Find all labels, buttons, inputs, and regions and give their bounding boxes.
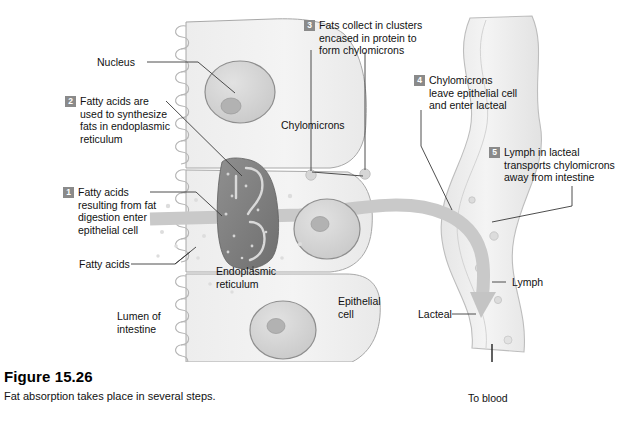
step-1: 1 Fatty acids resulting from fat digesti… bbox=[63, 186, 167, 236]
label-lymph: Lymph bbox=[512, 276, 543, 289]
figure-15-26: 1 Fatty acids resulting from fat digesti… bbox=[0, 0, 641, 428]
step-2-badge: 2 bbox=[65, 96, 76, 107]
label-nucleus: Nucleus bbox=[97, 56, 135, 69]
step-4-badge: 4 bbox=[414, 75, 425, 86]
step-1-badge: 1 bbox=[63, 187, 74, 198]
chylomicron-particle bbox=[306, 170, 316, 180]
chylomicron-vesicle bbox=[504, 336, 512, 344]
nucleus-top bbox=[205, 61, 275, 123]
nucleolus bbox=[267, 319, 285, 334]
step-4-text: Chylomicrons leave epithelial cell and e… bbox=[429, 74, 517, 112]
label-fatty-acids: Fatty acids bbox=[79, 258, 130, 271]
figure-caption-block: Figure 15.26 Fat absorption takes place … bbox=[4, 368, 624, 402]
nucleolus bbox=[311, 217, 329, 232]
step-2: 2 Fatty acids are used to synthesize fat… bbox=[65, 95, 177, 145]
label-lumen-of-intestine: Lumen of intestine bbox=[117, 310, 179, 335]
step-5-text: Lymph in lacteal transports chylomicrons… bbox=[504, 146, 615, 184]
nucleus-middle bbox=[294, 199, 360, 259]
label-epithelial-cell: Epithelial cell bbox=[338, 295, 398, 320]
chylomicron-vesicle bbox=[490, 232, 498, 240]
chylomicron-vesicle bbox=[469, 197, 475, 203]
label-chylomicrons: Chylomicrons bbox=[281, 119, 345, 132]
step-1-text: Fatty acids resulting from fat digestion… bbox=[78, 186, 156, 236]
step-4: 4 Chylomicrons leave epithelial cell and… bbox=[414, 74, 532, 112]
step-5-badge: 5 bbox=[489, 147, 500, 158]
lacteal-vessel bbox=[441, 16, 541, 352]
step-3-text: Fats collect in clusters encased in prot… bbox=[319, 19, 422, 57]
chylomicron-vesicle bbox=[494, 296, 501, 303]
step-2-text: Fatty acids are used to synthesize fats … bbox=[80, 95, 170, 145]
label-lacteal: Lacteal bbox=[418, 308, 452, 321]
step-5: 5 Lymph in lacteal transports chylomicro… bbox=[489, 146, 637, 184]
step-3: 3 Fats collect in clusters encased in pr… bbox=[304, 19, 444, 57]
step-3-badge: 3 bbox=[304, 20, 315, 31]
label-endoplasmic-reticulum: Endoplasmic reticulum bbox=[216, 265, 294, 290]
figure-caption-text: Fat absorption takes place in several st… bbox=[4, 390, 624, 402]
figure-number: Figure 15.26 bbox=[4, 368, 624, 385]
nucleolus bbox=[221, 98, 241, 114]
chylomicron-particle bbox=[360, 169, 370, 179]
lacteal-outline bbox=[441, 16, 541, 352]
nucleus-bottom bbox=[250, 301, 316, 359]
